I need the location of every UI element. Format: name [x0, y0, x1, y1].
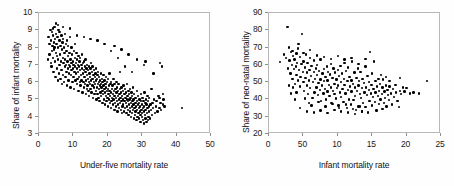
data-point: [120, 48, 122, 50]
data-point: [163, 105, 165, 107]
data-point: [376, 85, 378, 87]
data-point: [67, 55, 69, 57]
data-point: [67, 45, 69, 47]
data-point: [62, 26, 64, 28]
data-point: [385, 76, 387, 78]
data-point: [113, 83, 115, 85]
data-point: [107, 105, 109, 107]
data-point: [93, 93, 95, 95]
y-tick: [265, 64, 268, 65]
plot-area-right: [268, 12, 440, 133]
data-point: [350, 79, 352, 81]
data-point: [319, 58, 321, 60]
data-point: [357, 63, 359, 65]
data-point: [56, 36, 58, 38]
data-point: [306, 84, 308, 86]
data-point: [136, 90, 138, 92]
data-point: [315, 67, 317, 69]
x-axis-title-left: Under-five mortality rate: [38, 160, 210, 170]
data-point: [399, 77, 401, 79]
x-tick: [141, 133, 142, 136]
data-point: [108, 72, 110, 74]
data-point: [387, 94, 389, 96]
data-point: [361, 110, 363, 112]
data-point: [344, 92, 346, 94]
data-point: [301, 33, 303, 35]
data-point: [317, 94, 319, 96]
data-point: [337, 55, 339, 57]
data-point: [395, 91, 397, 93]
x-tick-label: 50: [288, 139, 316, 149]
data-point: [400, 93, 402, 95]
data-point: [377, 95, 379, 97]
data-point: [136, 58, 138, 60]
y-tick: [35, 12, 38, 13]
data-point: [418, 92, 420, 94]
data-point: [299, 56, 301, 58]
y-tick-label: 9: [8, 24, 32, 34]
data-point: [343, 62, 345, 64]
data-point: [71, 53, 73, 55]
data-point: [326, 79, 328, 81]
data-point: [319, 109, 321, 111]
data-point: [371, 104, 373, 106]
data-point: [80, 64, 82, 66]
data-point: [55, 43, 57, 45]
y-tick: [265, 81, 268, 82]
data-point: [343, 78, 345, 80]
data-point: [140, 93, 142, 95]
data-point: [361, 87, 363, 89]
data-point: [302, 71, 304, 73]
data-point: [318, 70, 320, 72]
data-point: [81, 91, 83, 93]
data-point: [321, 84, 323, 86]
data-point: [350, 90, 352, 92]
chart-panel-left: 34567891001020304050 Under-five mortalit…: [0, 0, 227, 186]
data-point: [340, 96, 342, 98]
x-tick-label: 20: [392, 139, 420, 149]
data-point: [143, 64, 145, 66]
data-point: [302, 81, 304, 83]
data-point: [391, 103, 393, 105]
data-point: [359, 105, 361, 107]
data-point: [50, 39, 52, 41]
data-point: [330, 86, 332, 88]
data-point: [352, 83, 354, 85]
data-point: [381, 86, 383, 88]
data-point: [162, 93, 164, 95]
data-point: [354, 95, 356, 97]
data-point: [368, 89, 370, 91]
data-point: [379, 83, 381, 85]
data-point: [348, 76, 350, 78]
data-point: [385, 105, 387, 107]
y-tick: [265, 47, 268, 48]
data-point: [405, 87, 407, 89]
data-point: [393, 96, 395, 98]
x-tick-label: 25: [426, 139, 454, 149]
data-point: [385, 84, 387, 86]
data-point: [300, 63, 302, 65]
data-point: [386, 89, 388, 91]
data-point: [112, 78, 114, 80]
data-point: [141, 116, 143, 118]
x-tick: [371, 133, 372, 136]
data-point: [53, 46, 55, 48]
x-tick: [406, 133, 407, 136]
data-point: [375, 109, 377, 111]
data-point: [372, 88, 374, 90]
data-point: [285, 57, 287, 59]
data-point: [347, 111, 349, 113]
data-point: [119, 102, 121, 104]
data-point: [53, 26, 55, 28]
data-point: [138, 117, 140, 119]
data-point: [110, 50, 112, 52]
data-point: [152, 72, 154, 74]
data-point: [378, 90, 380, 92]
data-point: [323, 68, 325, 70]
data-point: [341, 72, 343, 74]
x-tick: [337, 133, 338, 136]
data-point: [295, 52, 297, 54]
data-point: [120, 109, 122, 111]
data-point: [156, 110, 158, 112]
data-point: [148, 97, 150, 99]
